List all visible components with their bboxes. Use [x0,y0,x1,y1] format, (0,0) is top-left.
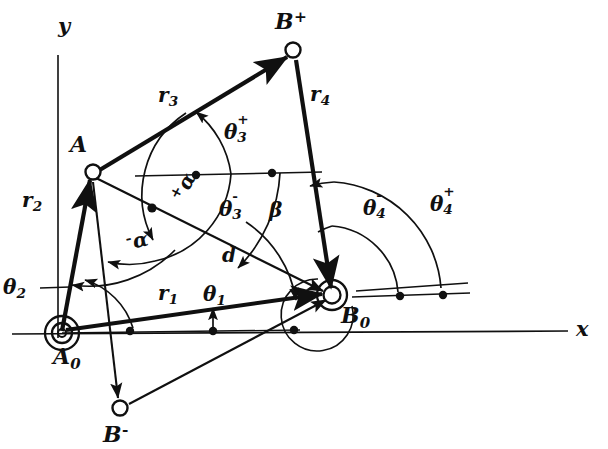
joint-label-A0-sub: 0 [70,355,80,373]
angle-label-theta1: θ1 [203,284,226,308]
joint-label-A: A [70,133,87,155]
dot-datum-A-2 [268,169,276,177]
angle-label-theta4-plus-sup: + [443,185,454,199]
angle-label-theta3-minus-affix: -3 [232,202,240,216]
dot-datum-A0-2 [209,327,217,335]
vector-label-r2: r2 [22,190,42,214]
angle-label-theta4-plus: θ+4 [430,194,452,214]
dot-vertex-alpha [147,203,156,212]
vector-label-r3-text: r [158,83,169,107]
diagram-canvas [0,0,608,449]
joint-label-B-plus: B+ [275,10,307,32]
joint-B-plus [286,43,301,58]
vector-label-r4-text: r [310,82,321,106]
joint-label-B0-sub: 0 [360,314,370,332]
joint-B0-mid [324,287,341,304]
vector-r2 [62,180,90,331]
dot-datum-A0-3 [290,326,298,334]
joint-A [86,165,101,180]
angle-label-theta3-minus: θ-3 [219,199,241,219]
angle-label-theta4-minus-sub: 4 [376,207,385,221]
joint-label-B-plus-sup: + [294,8,307,26]
joint-B-minus [113,401,128,416]
joint-label-B-minus: B- [103,423,128,445]
vector-label-r4: r4 [310,84,330,108]
angle-label-theta1-text: θ [203,282,216,306]
arc-theta4-plus [334,182,441,288]
angle-label-alpha-minus: -α [124,227,150,252]
vector-r1 [66,294,322,330]
angle-label-theta4-minus: θ-4 [363,198,385,218]
joint-label-B-minus-text: B [103,421,122,447]
joint-label-A0-text: A [53,343,70,369]
angle-label-theta2-sub: 2 [16,285,25,301]
datum-line-A [135,172,322,176]
joint-label-B0: B0 [341,304,370,331]
angle-label-theta2: θ2 [3,277,26,301]
dot-datum-A0-1 [126,327,134,335]
vector-label-d-text: d [222,243,236,267]
angle-label-beta: β [269,200,282,220]
arc-theta3-minus-tail [108,261,155,264]
angle-label-theta4-minus-text: θ [363,196,376,220]
joint-label-A-text: A [70,131,87,157]
angle-label-theta3-plus: θ+3 [224,122,246,142]
theta2-leader [40,287,70,288]
datum-line-B0 [352,293,470,297]
vector-label-r4-sub: 4 [321,92,330,108]
angle-label-theta4-minus-sup: - [376,189,382,203]
angle-label-theta3-minus-text: θ [219,197,232,221]
vector-label-r1: r1 [158,283,178,307]
joint-label-B0-text: B [341,302,360,328]
angle-label-theta4-plus-sub: 4 [443,203,452,217]
dot-datum-B0-2 [439,291,447,299]
joint-label-B-minus-sup: - [122,421,128,439]
vector-label-r1-text: r [158,281,169,305]
x-axis-label: x [576,318,589,339]
angle-label-theta4-plus-affix: +4 [443,197,451,211]
angle-label-theta4-plus-text: θ [430,192,443,216]
angle-label-theta2-text: θ [3,275,16,299]
arc-theta4-minus [332,226,398,292]
kinematic-diagram: y x A0 B0 A B+ B- r1 r2 r3 r4 d θ1 θ2 θ+… [0,0,608,449]
y-axis-label: y [58,15,70,36]
angle-label-theta4-minus-affix: -4 [376,201,384,215]
angle-label-theta3-minus-sub: 3 [232,208,241,222]
vector-label-r3-sub: 3 [169,93,178,109]
joint-label-A0: A0 [53,345,81,372]
angle-label-theta3-plus-sub: 3 [237,131,246,145]
datum-line-B0-parallel [356,283,468,291]
angle-label-theta3-plus-affix: +3 [237,125,245,139]
angle-label-theta3-plus-text: θ [224,120,237,144]
vector-r3 [98,57,287,171]
angle-label-beta-text: β [269,198,282,222]
angle-label-theta3-minus-sup: - [232,190,238,204]
vector-label-r1-sub: 1 [169,291,178,307]
vector-label-r2-sub: 2 [33,198,42,214]
arc-theta1-b0 [246,222,296,300]
angle-label-theta1-sub: 1 [216,292,225,308]
vector-label-r3: r3 [158,85,178,109]
angle-label-theta3-plus-sup: + [237,113,248,127]
joint-label-B-plus-text: B [275,8,294,34]
angle-arcs [40,112,441,351]
vector-label-d: d [222,245,236,265]
vector-label-r2-text: r [22,188,33,212]
dot-datum-B0-1 [396,292,404,300]
